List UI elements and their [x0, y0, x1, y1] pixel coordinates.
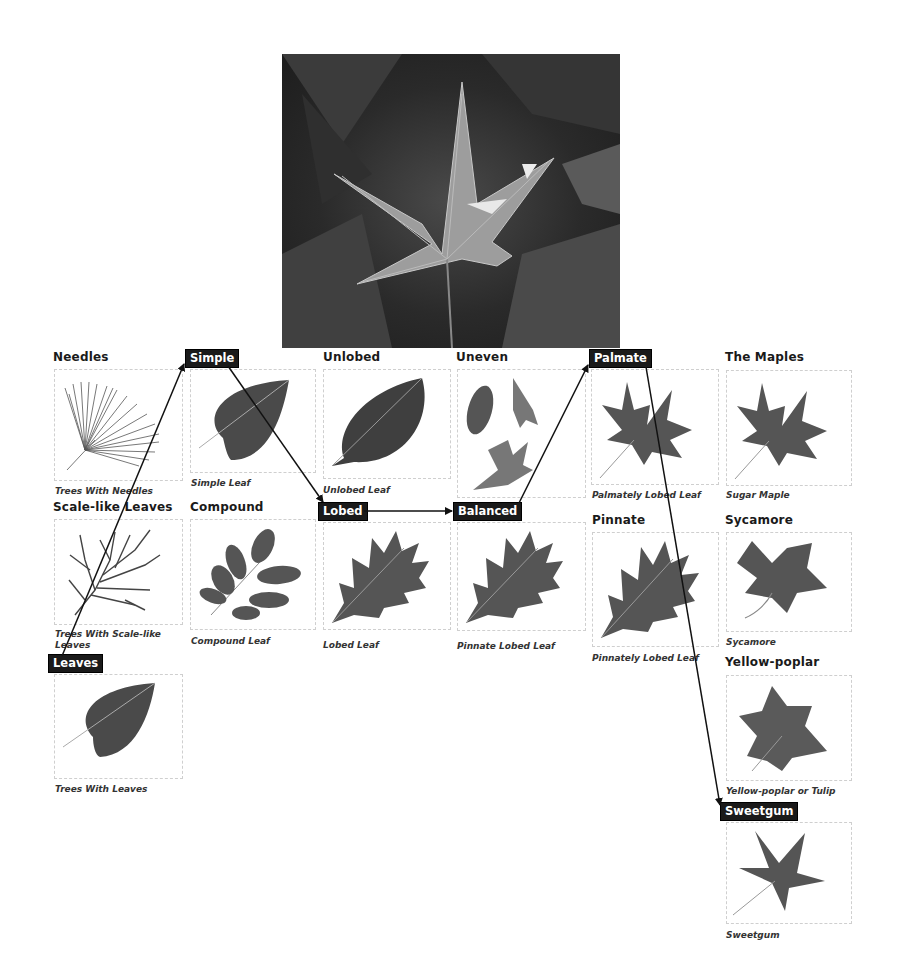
oak-leaf-icon — [458, 523, 585, 630]
tag-leaves[interactable]: Leaves — [48, 654, 103, 673]
caption-lobed: Lobed Leaf — [323, 640, 379, 651]
needles-image[interactable] — [54, 369, 183, 481]
unlobed-leaf-icon — [324, 370, 450, 478]
maple-leaf-icon — [727, 371, 851, 485]
oak-leaf-icon — [593, 533, 718, 646]
heading-the-maples: The Maples — [725, 350, 804, 364]
uneven-image[interactable] — [457, 369, 586, 498]
sycamore-leaf-icon — [727, 533, 851, 631]
maple-leaf-icon — [592, 370, 718, 484]
sweetgum-image[interactable] — [726, 822, 852, 924]
caption-balanced: Pinnate Lobed Leaf — [457, 641, 555, 652]
heading-needles: Needles — [53, 350, 109, 364]
compound-leaf-icon — [191, 520, 315, 629]
heading-scale-like-leaves: Scale-like Leaves — [53, 500, 173, 514]
heading-sycamore: Sycamore — [725, 513, 793, 527]
caption-maples: Sugar Maple — [726, 490, 790, 501]
scale-like-image[interactable] — [54, 519, 183, 625]
sweetgum-leaf-icon — [727, 823, 851, 923]
lobed-image[interactable] — [323, 522, 451, 630]
tag-sweetgum[interactable]: Sweetgum — [720, 802, 798, 821]
caption-scale-like-line2: Leaves — [55, 640, 90, 651]
tag-balanced[interactable]: Balanced — [453, 502, 522, 521]
simple-leaf-icon — [191, 370, 315, 472]
oak-leaf-icon — [324, 523, 450, 629]
heading-pinnate: Pinnate — [592, 513, 645, 527]
caption-pinnate: Pinnately Lobed Leaf — [592, 653, 699, 664]
tag-lobed[interactable]: Lobed — [318, 502, 368, 521]
heading-uneven: Uneven — [456, 350, 508, 364]
caption-leaves: Trees With Leaves — [55, 784, 147, 795]
uneven-leaves-icon — [458, 370, 585, 497]
heading-yellow-poplar: Yellow-poplar — [725, 655, 819, 669]
heading-unlobed: Unlobed — [323, 350, 380, 364]
sycamore-image[interactable] — [726, 532, 852, 632]
caption-compound: Compound Leaf — [191, 636, 270, 647]
tag-simple[interactable]: Simple — [185, 349, 239, 368]
caption-needles: Trees With Needles — [55, 486, 153, 497]
leaf-photo-image — [282, 54, 620, 348]
simple-leaf-icon — [55, 675, 182, 778]
sweetgum-photo — [282, 54, 620, 348]
leaves-image[interactable] — [54, 674, 183, 779]
heading-compound: Compound — [190, 500, 264, 514]
unlobed-image[interactable] — [323, 369, 451, 479]
yellow-poplar-image[interactable] — [726, 675, 852, 781]
pinnate-image[interactable] — [592, 532, 719, 647]
caption-unlobed: Unlobed Leaf — [323, 485, 390, 496]
maples-image[interactable] — [726, 370, 852, 486]
tulip-poplar-leaf-icon — [727, 676, 851, 780]
caption-scale-like-line1: Trees With Scale-like — [55, 629, 161, 640]
simple-image[interactable] — [190, 369, 316, 473]
balanced-image[interactable] — [457, 522, 586, 631]
palmate-image[interactable] — [591, 369, 719, 485]
caption-simple: Simple Leaf — [191, 478, 251, 489]
caption-sweetgum: Sweetgum — [726, 930, 780, 941]
caption-sycamore: Sycamore — [726, 637, 776, 648]
caption-palmate: Palmately Lobed Leaf — [592, 490, 701, 501]
caption-yellow-poplar: Yellow-poplar or Tulip — [726, 786, 835, 797]
cedar-sprig-icon — [55, 520, 182, 624]
tag-palmate[interactable]: Palmate — [589, 349, 652, 368]
compound-image[interactable] — [190, 519, 316, 630]
pine-needles-icon — [55, 370, 182, 480]
